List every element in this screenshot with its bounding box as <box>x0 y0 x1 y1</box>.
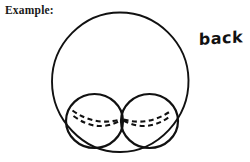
hand-drawn-figure <box>0 0 250 162</box>
figure-canvas: Example: back <box>0 0 250 162</box>
back-annotation: back <box>199 27 243 50</box>
example-caption: Example: <box>5 3 54 17</box>
left-upper-dashed-arc <box>73 111 121 122</box>
right-lower-dashed-arc <box>124 116 171 126</box>
